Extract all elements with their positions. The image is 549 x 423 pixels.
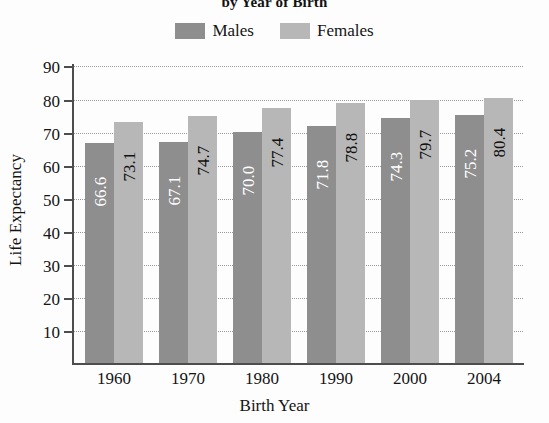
x-tick-label-1990: 1990 xyxy=(299,370,373,387)
bar-value-males-2000: 74.3 xyxy=(387,152,404,182)
bar-value-females-1990: 78.8 xyxy=(342,133,359,163)
bar-females-2004[interactable]: 80.4 xyxy=(484,98,513,363)
x-axis-title: Birth Year xyxy=(0,396,549,416)
bar-value-males-1980: 70.0 xyxy=(239,166,256,196)
y-axis-title: Life Expectancy xyxy=(6,110,26,310)
bar-females-1970[interactable]: 74.7 xyxy=(188,116,217,363)
bar-females-1960[interactable]: 73.1 xyxy=(114,122,143,363)
bar-females-1980[interactable]: 77.4 xyxy=(262,108,291,363)
bar-males-1980[interactable]: 70.0 xyxy=(233,132,262,363)
bar-value-females-1960: 73.1 xyxy=(120,152,137,182)
bar-value-males-1960: 66.6 xyxy=(91,177,108,207)
bar-females-1990[interactable]: 78.8 xyxy=(336,103,365,363)
chart-figure: by Year of Birth Males Females 90 80 xyxy=(0,0,549,423)
x-tick-label-1970: 1970 xyxy=(151,370,225,387)
bar-value-males-2004: 75.2 xyxy=(461,149,478,179)
x-tick-label-1960: 1960 xyxy=(77,370,151,387)
bar-males-2000[interactable]: 74.3 xyxy=(381,118,410,363)
bar-value-males-1990: 71.8 xyxy=(313,160,330,190)
bar-males-2004[interactable]: 75.2 xyxy=(455,115,484,363)
bar-value-females-2004: 80.4 xyxy=(490,128,507,158)
bar-value-males-1970: 67.1 xyxy=(165,176,182,206)
x-tick-label-1980: 1980 xyxy=(225,370,299,387)
bar-females-2000[interactable]: 79.7 xyxy=(410,100,439,363)
bar-value-females-1970: 74.7 xyxy=(194,146,211,176)
x-tick-label-2004: 2004 xyxy=(447,370,521,387)
bar-value-females-2000: 79.7 xyxy=(416,130,433,160)
bar-males-1960[interactable]: 66.6 xyxy=(85,143,114,363)
bar-males-1990[interactable]: 71.8 xyxy=(307,126,336,363)
x-tick-label-2000: 2000 xyxy=(373,370,447,387)
bar-value-females-1980: 77.4 xyxy=(268,138,285,168)
bar-males-1970[interactable]: 67.1 xyxy=(159,142,188,363)
